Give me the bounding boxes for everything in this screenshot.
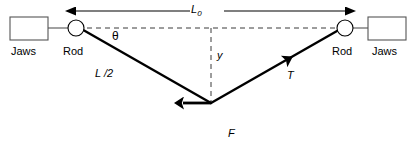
tension-label: T — [287, 70, 294, 81]
rod-right-label: Rod — [332, 46, 352, 57]
rod-left-circle — [68, 20, 84, 36]
angle-theta-label: θ — [112, 30, 119, 42]
sag-label: y — [217, 50, 223, 61]
force-label: F — [228, 128, 235, 139]
jaws-left-label: Jaws — [11, 46, 36, 57]
jaws-left-box — [10, 17, 48, 40]
rod-right-circle — [337, 20, 353, 36]
length-total-subscript: 0 — [197, 9, 201, 18]
jaws-right-label: Jaws — [372, 46, 397, 57]
diagram-canvas — [0, 0, 410, 153]
tension-arrow — [228, 61, 285, 93]
half-length-label: L /2 — [95, 68, 113, 79]
jaws-right-box — [368, 17, 406, 40]
physics-diagram: L0 θ L /2 y T F Jaws Rod Rod Jaws — [0, 0, 410, 153]
cable-right-segment — [211, 27, 344, 103]
length-total-label: L0 — [191, 4, 202, 18]
cable-left-segment — [78, 27, 211, 103]
rod-left-label: Rod — [63, 46, 83, 57]
